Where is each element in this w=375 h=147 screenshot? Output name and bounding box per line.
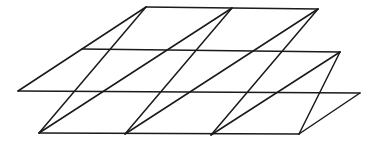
row-line-bottom: [39, 133, 299, 134]
lattice-diagram: [0, 0, 375, 147]
diagram-background: [0, 0, 375, 147]
figure-root: [0, 0, 375, 147]
